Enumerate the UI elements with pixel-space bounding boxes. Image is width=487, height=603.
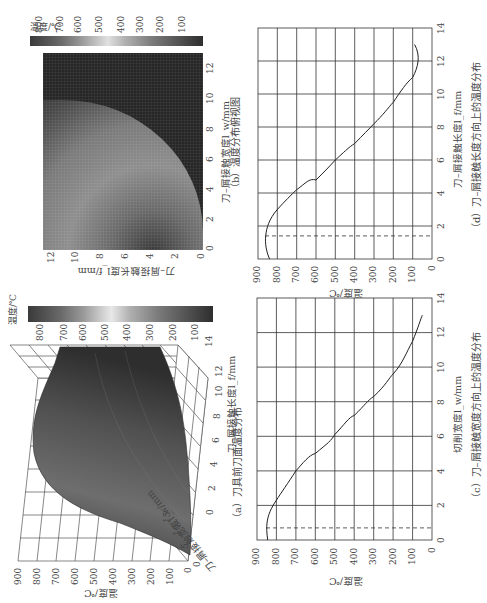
d-y-tick-100: 100	[407, 266, 417, 283]
z-tick-800: 800	[32, 568, 42, 585]
c-x-tick-2: 2	[436, 502, 446, 508]
d-x-tick-8: 8	[436, 124, 446, 130]
c-x-tick-0: 0	[436, 537, 446, 543]
b-x-tick-6: 6	[205, 156, 215, 162]
c-y-tick-200: 200	[388, 548, 398, 565]
d-x-tick-0: 0	[436, 256, 446, 262]
c-y-tick-500: 500	[329, 548, 339, 565]
b-x-tick-10: 10	[205, 93, 215, 104]
cbar-a-tick-300: 300	[145, 324, 155, 341]
d-x-tick-14: 14	[436, 23, 446, 34]
d-x-axis-label: 刀–屑接触长度l_f/mm	[450, 91, 464, 188]
b-y-tick-8: 8	[95, 253, 105, 259]
d-y-axis-label: 温度/℃	[329, 287, 363, 301]
panel-b-heatmap: 12 10 8 6 4 2 0 刀–屑接触长度l_f/mm 0 2 4 6 8 …	[0, 0, 243, 303]
cbar-a-tick-100: 100	[190, 324, 200, 341]
z-tick-300: 300	[127, 568, 137, 585]
d-x-tick-12: 12	[436, 56, 446, 67]
heatmap	[43, 53, 203, 250]
y-tick-4: 4	[209, 461, 219, 467]
cbar-a-tick-200: 200	[168, 324, 178, 341]
d-x-tick-6: 6	[436, 157, 446, 163]
z-tick-0: 0	[183, 567, 193, 573]
cbar-b-tick-200: 200	[155, 16, 165, 33]
z-tick-100: 100	[165, 568, 175, 585]
temperature-curve-d	[265, 45, 418, 260]
d-y-tick-700: 700	[291, 266, 301, 283]
y-tick-12: 12	[214, 366, 224, 377]
cbar-b-tick-300: 300	[135, 16, 145, 33]
cbar-b-tick-500: 500	[94, 16, 104, 33]
z-tick-200: 200	[146, 568, 156, 585]
caption-d: （d）刀–屑接触长度方向上的温度分布	[468, 62, 483, 233]
c-y-axis-label: 温度/℃	[329, 575, 363, 589]
b-y-axis-label: 刀–屑接触长度l_f/mm	[78, 265, 175, 279]
d-y-tick-400: 400	[349, 266, 359, 283]
cbar-b-tick-400: 400	[116, 16, 126, 33]
z-tick-700: 700	[51, 568, 61, 585]
y-tick-2: 2	[207, 485, 217, 491]
c-y-tick-400: 400	[349, 548, 359, 565]
b-x-tick-0: 0	[205, 245, 215, 251]
c-y-tick-900: 900	[251, 548, 261, 565]
c-y-tick-100: 100	[407, 548, 417, 565]
d-x-tick-4: 4	[436, 190, 446, 196]
c-x-tick-6: 6	[436, 433, 446, 439]
c-y-tick-0: 0	[427, 547, 437, 553]
cbar-a-tick-500: 500	[100, 324, 110, 341]
z-tick-600: 600	[70, 568, 80, 585]
b-y-tick-4: 4	[145, 253, 155, 259]
panel-c-line-chart: 900 800 700 600 500 400 300 200 100 0 温度…	[243, 303, 487, 603]
colorbar-b	[30, 36, 203, 46]
c-x-tick-12: 12	[436, 327, 446, 338]
d-y-tick-900: 900	[252, 266, 262, 283]
z-tick-400: 400	[108, 568, 118, 585]
cbar-b-tick-100: 100	[177, 16, 187, 33]
cbar-b-tick-800: 800	[34, 16, 44, 33]
c-x-tick-8: 8	[436, 399, 446, 405]
c-x-axis-label: 切削宽度l_w/mm	[450, 376, 464, 453]
d-y-tick-300: 300	[368, 266, 378, 283]
cbar-b-tick-600: 600	[73, 16, 83, 33]
z-tick-900: 900	[13, 568, 23, 585]
temperature-curve-c	[267, 315, 423, 540]
cbar-a-tick-800: 800	[35, 324, 45, 341]
cbar-b-tick-700: 700	[55, 16, 65, 33]
y-tick-6: 6	[211, 437, 221, 443]
z-tick-500: 500	[89, 568, 99, 585]
caption-a-visible: （a）刀具前刀面温度分布	[229, 407, 244, 523]
c-x-tick-4: 4	[436, 468, 446, 474]
cbar-a-tick-700: 700	[59, 324, 69, 341]
d-x-tick-2: 2	[436, 223, 446, 229]
c-y-tick-700: 700	[290, 548, 300, 565]
y-tick-8: 8	[212, 413, 222, 419]
b-y-tick-12: 12	[46, 252, 56, 263]
b-y-tick-6: 6	[120, 253, 130, 259]
c-y-tick-800: 800	[271, 548, 281, 565]
b-y-tick-10: 10	[70, 252, 80, 263]
cbar-a-tick-400: 400	[122, 324, 132, 341]
d-y-tick-500: 500	[330, 266, 340, 283]
caption-c: （c）刀–屑接触宽度方向上的温度分布	[468, 332, 483, 503]
cbar-a-tick-600: 600	[78, 324, 88, 341]
b-x-tick-2: 2	[205, 216, 215, 222]
d-y-tick-800: 800	[272, 266, 282, 283]
z-axis-label: 温度/℃	[84, 587, 118, 601]
c-y-tick-300: 300	[368, 548, 378, 565]
panel-d-line-chart: 900 800 700 600 500 400 300 200 100 0 温度…	[243, 0, 487, 303]
c-x-tick-10: 10	[436, 362, 446, 373]
y-tick-10: 10	[214, 386, 224, 397]
caption-b: （b）温度分布俯视图	[227, 97, 242, 193]
figure-page: 900 800 700 600 500 400 300 200 100 0 温度…	[0, 0, 487, 603]
b-y-tick-2: 2	[170, 253, 180, 259]
c-y-tick-600: 600	[310, 548, 320, 565]
d-y-tick-200: 200	[388, 266, 398, 283]
y-tick-0: 0	[205, 509, 215, 515]
b-x-tick-4: 4	[205, 186, 215, 192]
b-x-tick-12: 12	[205, 63, 215, 74]
d-y-tick-600: 600	[310, 266, 320, 283]
d-x-tick-10: 10	[436, 89, 446, 100]
b-y-tick-0: 0	[196, 253, 206, 259]
d-y-tick-0: 0	[427, 265, 437, 271]
b-x-tick-8: 8	[205, 126, 215, 132]
